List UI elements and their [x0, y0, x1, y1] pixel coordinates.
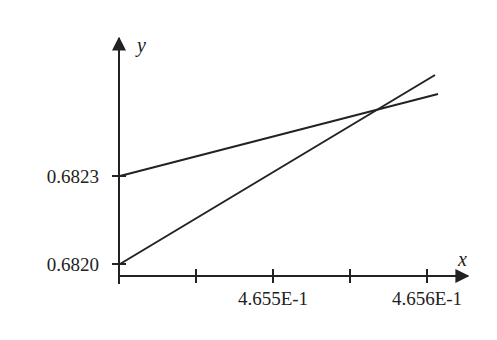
series-line-1: [120, 94, 438, 176]
x-tick-label-4: 4.656E-1: [392, 288, 462, 309]
x-tick-label-2: 4.655E-1: [238, 288, 308, 309]
y-tick-label-low: 0.6820: [47, 254, 99, 275]
x-axis-label: x: [457, 248, 467, 270]
line-chart: y x 0.6823 0.6820 4.655E-1 4.656E-1: [0, 0, 497, 340]
y-tick-label-high: 0.6823: [47, 166, 99, 187]
series-line-2: [120, 75, 435, 264]
y-axis-label: y: [135, 34, 146, 57]
